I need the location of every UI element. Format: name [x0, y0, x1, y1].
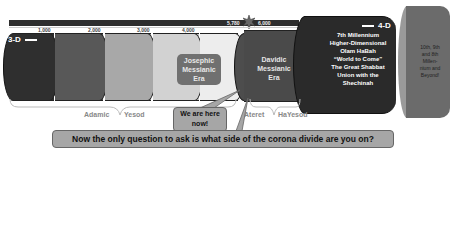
question-callout: Now the only question to ask is what sid… — [52, 130, 394, 148]
we-are-here-callout: We are here now! — [173, 107, 227, 132]
